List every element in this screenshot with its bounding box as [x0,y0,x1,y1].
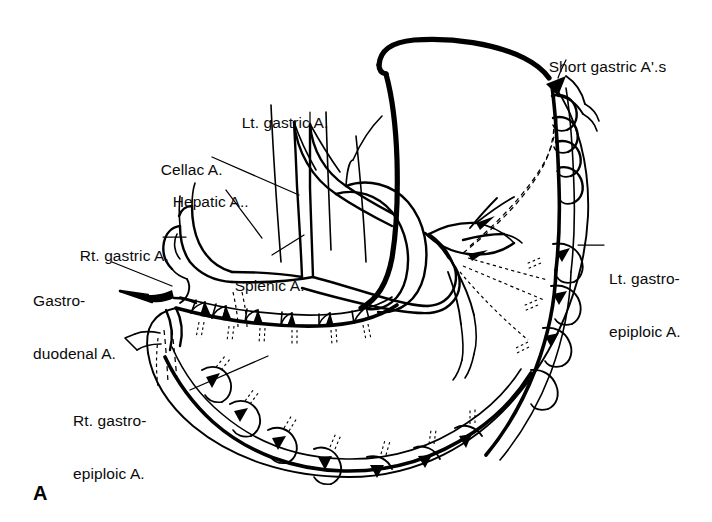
label-lt-gastric-line-1: Lt. gastric A. [242,114,329,131]
label-rt-gastroepiploic-line-2: epiploic A. [73,465,146,483]
figure-panel-letter: A [33,482,48,505]
label-short-gastric-arteries: Short gastric A'.s [531,40,666,93]
label-gastroduodenal-artery: Gastro- duodenal A. [33,257,116,397]
label-rt-gastroepiploic-line-1: Rt. gastro- [73,412,146,430]
short-gastric-branch-vessels [425,197,522,380]
left-gastroepiploic-artery [486,244,583,460]
stomach-outline [125,39,588,477]
label-gastroduodenal-line-1: Gastro- [33,292,116,310]
label-left-gastroepiploic-artery: Lt. gastro- epiploic A. [609,235,681,375]
label-gastroduodenal-line-2: duodenal A. [33,345,116,363]
label-left-gastric-artery: Lt. gastric A. [224,96,328,149]
short-gastric-arteries [546,76,599,272]
gastroduodenal-artery [120,290,196,303]
label-short-gastric-line-1: Short gastric A'.s [549,58,667,75]
label-hepatic-artery: Hepatic A.. [155,175,249,228]
label-lt-gastroepiploic-line-2: epiploic A. [609,323,681,341]
label-splenic-artery: Splenic A. [217,259,305,312]
anatomical-figure-gastric-arteries: .s {fill:none;stroke:#000;stroke-linecap… [0,0,712,522]
label-right-gastroepiploic-artery: Rt. gastro- epiploic A. [73,377,146,517]
label-splenic-line-1: Splenic A. [235,277,305,294]
label-hepatic-line-1: Hepatic A.. [173,193,249,210]
label-lt-gastroepiploic-line-1: Lt. gastro- [609,270,681,288]
